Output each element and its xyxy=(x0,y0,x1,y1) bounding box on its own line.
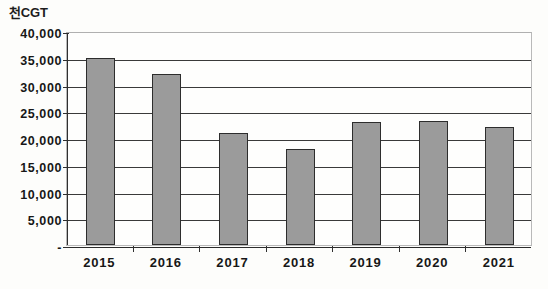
y-axis-tick-label: 5,000 xyxy=(2,214,62,228)
y-axis-tick-label: 30,000 xyxy=(2,81,62,95)
x-axis-tick-label: 2016 xyxy=(150,255,182,270)
bar xyxy=(352,122,381,245)
y-axis-tick-labels: -5,00010,00015,00020,00025,00030,00035,0… xyxy=(0,33,62,245)
x-axis-tick-label: 2021 xyxy=(483,255,515,270)
x-axis-tick-mark xyxy=(133,246,134,252)
x-axis-tick-label: 2019 xyxy=(350,255,382,270)
y-axis-tick-label: 15,000 xyxy=(2,161,62,175)
x-axis-tick-label: 2015 xyxy=(83,255,115,270)
y-axis-tick-label: 20,000 xyxy=(2,134,62,148)
y-axis-tick-label: 25,000 xyxy=(2,107,62,121)
x-axis-tick-label: 2017 xyxy=(216,255,248,270)
chart-page: 천CGT -5,00010,00015,00020,00025,00030,00… xyxy=(0,0,548,289)
x-axis-tick-label: 2020 xyxy=(416,255,448,270)
bar xyxy=(419,121,448,245)
y-axis-tick-label: 35,000 xyxy=(2,54,62,68)
y-axis-unit-label: 천CGT xyxy=(9,2,48,21)
x-axis-tick-mark xyxy=(266,246,267,252)
bar xyxy=(219,133,248,245)
plot-area xyxy=(66,32,532,246)
y-axis-tick-label: - xyxy=(2,241,62,255)
x-axis-tick-mark xyxy=(399,246,400,252)
x-axis-tick-mark xyxy=(465,246,466,252)
bar xyxy=(152,74,181,245)
y-axis-tick-label: 10,000 xyxy=(2,188,62,202)
bar xyxy=(485,127,514,245)
y-axis-tick-label: 40,000 xyxy=(2,27,62,41)
x-axis-tick-mark xyxy=(332,246,333,252)
x-axis-tick-mark xyxy=(199,246,200,252)
x-axis-tick-labels: 2015201620172018201920202021 xyxy=(66,255,532,279)
x-axis-tick-marks xyxy=(66,246,532,253)
bar xyxy=(286,149,315,245)
x-axis-tick-label: 2018 xyxy=(283,255,315,270)
bars-layer xyxy=(67,33,531,245)
bar xyxy=(86,58,115,245)
